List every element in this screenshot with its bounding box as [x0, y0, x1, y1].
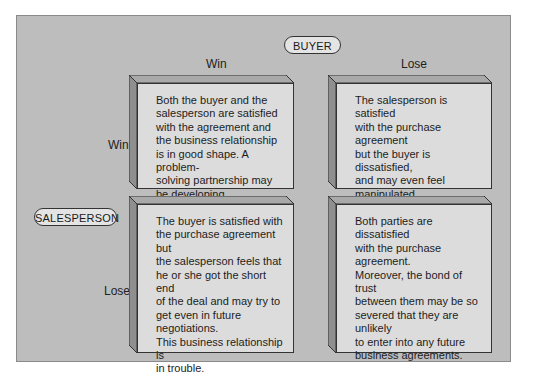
column-label-win: Win	[206, 57, 227, 71]
salesperson-label: SALESPERSON	[34, 208, 117, 226]
row-label-lose: Lose	[104, 284, 130, 298]
cell-lose-lose: Both parties are dissatisfied with the p…	[328, 196, 492, 353]
buyer-label: BUYER	[284, 36, 341, 54]
cell-win-win: Both the buyer and the salesperson are s…	[129, 75, 294, 189]
cell-text: Both the buyer and the salesperson are s…	[137, 83, 294, 189]
row-label-win: Win	[108, 138, 129, 152]
cell-text: Both parties are dissatisfied with the p…	[336, 204, 492, 353]
column-label-lose: Lose	[401, 57, 427, 71]
cell-win-lose: The salesperson is satisfied with the pu…	[328, 75, 492, 189]
cell-text: The salesperson is satisfied with the pu…	[336, 83, 492, 189]
cell-text: The buyer is satisfied with the purchase…	[137, 204, 294, 353]
cell-lose-win: The buyer is satisfied with the purchase…	[129, 196, 294, 353]
